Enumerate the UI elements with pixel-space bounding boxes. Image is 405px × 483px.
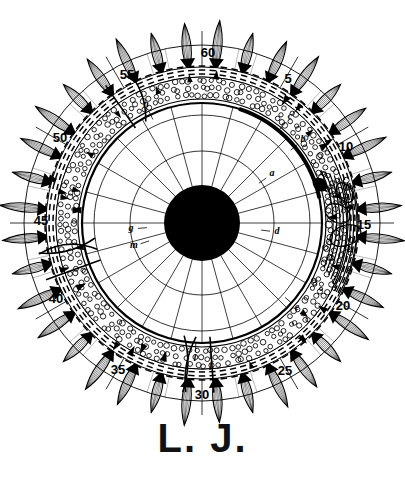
dash-mark	[50, 204, 51, 210]
dash-mark	[178, 370, 184, 371]
tick-label-20: 20	[336, 298, 350, 313]
dash-mark	[54, 204, 55, 210]
letter-label-a: a	[270, 167, 275, 178]
nucleus-layer	[164, 185, 240, 261]
radial-organism-diagram: 51015202530354045505560 abcdefglmn	[0, 0, 405, 483]
dash-mark	[54, 235, 55, 241]
dash-mark	[46, 203, 47, 210]
tick-label-60: 60	[201, 45, 215, 60]
dash-mark	[178, 374, 184, 375]
letter-label-l: l	[194, 352, 197, 363]
dash-mark	[358, 203, 359, 210]
dash-mark	[50, 236, 51, 242]
tick-label-25: 25	[278, 363, 292, 378]
dash-mark	[220, 370, 226, 371]
tick-label-35: 35	[111, 362, 125, 377]
letter-label-b: b	[301, 133, 306, 144]
label-leader-line	[210, 350, 211, 359]
letter-label-g: g	[128, 222, 134, 233]
dash-mark	[177, 67, 184, 68]
figure-root: 51015202530354045505560 abcdefglmn L. J.	[0, 0, 405, 483]
dash-mark	[220, 71, 226, 72]
signature-initials: L. J.	[0, 418, 405, 458]
dash-mark	[354, 236, 355, 242]
tick-label-50: 50	[53, 130, 67, 145]
tick-label-10: 10	[339, 139, 353, 154]
dash-mark	[177, 378, 184, 379]
letter-label-c: c	[288, 110, 293, 121]
dash-mark	[221, 67, 228, 68]
dash-mark	[221, 378, 228, 379]
dash-mark	[354, 204, 355, 210]
tick-label-55: 55	[120, 67, 134, 82]
tick-label-40: 40	[49, 291, 63, 306]
tick-label-45: 45	[34, 213, 48, 228]
dash-mark	[46, 236, 47, 243]
letter-label-e: e	[295, 301, 300, 312]
dash-mark	[55, 194, 56, 200]
dash-mark	[220, 374, 226, 375]
tick-label-15: 15	[357, 217, 371, 232]
tick-label-5: 5	[284, 71, 291, 86]
tick-label-30: 30	[195, 387, 209, 402]
dash-mark	[220, 75, 226, 76]
letter-label-m: m	[130, 239, 138, 250]
central-nucleus	[164, 185, 240, 261]
dash-mark	[178, 75, 184, 76]
letter-label-n: n	[143, 98, 149, 109]
dash-mark	[178, 71, 184, 72]
